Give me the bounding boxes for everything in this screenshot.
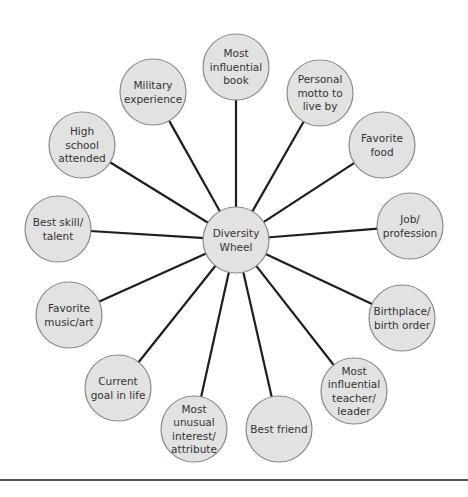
node-best-friend: Best friend	[246, 396, 312, 462]
most-unusual-interest-label-line: Most	[181, 403, 206, 415]
job-profession-label-line: profession	[383, 227, 437, 239]
bottom-rule	[0, 479, 468, 481]
most-influential-teacher-label-line: leader	[337, 405, 371, 417]
most-influential-teacher-label-line: influential	[328, 378, 380, 390]
most-unusual-interest-label-line: unusual	[173, 416, 214, 428]
node-current-goal: Currentgoal in life	[85, 355, 151, 421]
personal-motto-label-line: motto to	[297, 87, 342, 99]
hub-label-line: Diversity	[213, 227, 260, 239]
most-unusual-interest-label-line: interest/	[172, 430, 216, 442]
best-skill-talent-label-line: talent	[43, 230, 74, 242]
most-influential-book-label-line: influential	[210, 61, 262, 73]
favorite-music-art-label-line: Favorite	[48, 302, 90, 314]
node-most-unusual-interest: Mostunusualinterest/attribute	[161, 396, 227, 462]
favorite-food-label-line: food	[370, 146, 393, 158]
spoke-high-school	[109, 162, 209, 224]
high-school-label-line: High	[70, 125, 94, 137]
military-experience-label-line: experience	[124, 93, 182, 105]
node-military-experience: Militaryexperience	[120, 59, 186, 125]
best-friend-label-line: Best friend	[250, 423, 307, 435]
current-goal-label-line: Current	[98, 375, 137, 387]
node-most-influential-teacher: Mostinfluentialteacher/leader	[321, 358, 387, 424]
personal-motto-label-line: Personal	[298, 73, 343, 85]
most-influential-teacher-label-line: teacher/	[332, 392, 376, 404]
spoke-best-friend	[243, 270, 272, 398]
hub-node: DiversityWheel	[203, 207, 269, 273]
military-experience-label-line: Military	[134, 79, 173, 91]
most-unusual-interest-label-line: attribute	[171, 443, 217, 455]
spoke-personal-motto	[251, 121, 304, 213]
job-profession-label-line: Job/	[399, 213, 420, 225]
spoke-military-experience	[169, 120, 221, 213]
node-most-influential-book: Mostinfluentialbook	[203, 34, 269, 100]
node-best-skill-talent: Best skill/talent	[25, 196, 91, 262]
most-influential-teacher-label-line: Most	[341, 365, 366, 377]
most-influential-book-label-line: book	[223, 74, 250, 86]
most-influential-book-label-line: Most	[223, 47, 248, 59]
spoke-job-profession	[267, 229, 378, 238]
node-high-school: Highschoolattended	[49, 112, 115, 178]
node-favorite-music-art: Favoritemusic/art	[36, 282, 102, 348]
favorite-music-art-label-line: music/art	[44, 316, 93, 328]
high-school-label-line: attended	[58, 152, 106, 164]
node-personal-motto: Personalmotto tolive by	[287, 60, 353, 126]
spoke-best-skill-talent	[90, 231, 205, 238]
high-school-label-line: school	[65, 139, 99, 151]
diversity-wheel-diagram: MostinfluentialbookPersonalmotto tolive …	[0, 0, 468, 497]
favorite-food-label-line: Favorite	[361, 132, 403, 144]
spoke-most-unusual-interest	[201, 270, 229, 398]
hub-label-line: Wheel	[220, 241, 253, 253]
node-birthplace-birth-order: Birthplace/birth order	[369, 285, 435, 351]
birthplace-birth-order-label-line: birth order	[374, 319, 431, 331]
best-skill-talent-label-line: Best skill/	[33, 216, 84, 228]
node-favorite-food: Favoritefood	[349, 112, 415, 178]
birthplace-birth-order-label-line: Birthplace/	[374, 305, 431, 317]
current-goal-label-line: goal in life	[91, 389, 146, 401]
node-job-profession: Job/profession	[377, 193, 443, 259]
personal-motto-label-line: live by	[303, 100, 338, 112]
